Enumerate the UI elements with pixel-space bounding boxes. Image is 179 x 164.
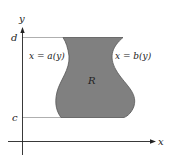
y-axis-label: y [18,13,25,24]
c-tick-label: c [12,112,18,123]
x-axis-arrow-icon [150,139,156,143]
x-axis-label: x [158,136,164,147]
right-curve-label: x = b(y) [115,51,152,61]
y-axis-arrow-icon [20,27,24,33]
region-label: R [87,75,96,86]
d-tick-label: d [11,32,17,43]
region-diagram: y x d c x = a(y) x = b(y) R [0,0,179,164]
left-curve-label: x = a(y) [29,51,65,61]
